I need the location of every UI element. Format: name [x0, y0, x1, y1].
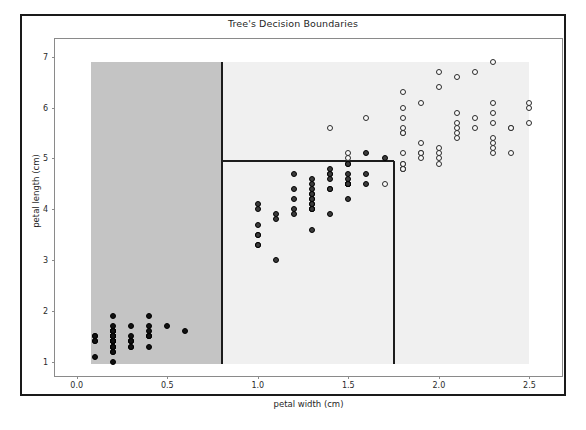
y-tick-label: 2 — [43, 306, 48, 315]
y-tick-label: 4 — [43, 205, 48, 214]
y-tick-mark — [52, 57, 55, 58]
y-tick-mark — [52, 209, 55, 210]
data-point-virginica — [382, 181, 388, 187]
y-tick-mark — [52, 260, 55, 261]
x-tick-label: 2.5 — [523, 381, 536, 390]
data-point-virginica — [490, 100, 496, 106]
data-point-virginica — [400, 166, 406, 172]
data-point-virginica — [490, 110, 496, 116]
data-point-virginica — [418, 140, 424, 146]
data-point-virginica — [454, 125, 460, 131]
data-point-versicolor — [327, 166, 333, 172]
y-tick-label: 6 — [43, 103, 48, 112]
y-tick-label: 3 — [43, 256, 48, 265]
x-tick-mark — [167, 376, 168, 379]
x-axis-label: petal width (cm) — [54, 399, 563, 409]
data-point-setosa — [110, 359, 116, 365]
data-point-virginica — [436, 69, 442, 75]
data-point-virginica — [454, 110, 460, 116]
data-point-versicolor — [291, 171, 297, 177]
y-tick-label: 5 — [43, 154, 48, 163]
data-point-virginica — [472, 115, 478, 121]
x-tick-mark — [348, 376, 349, 379]
data-point-setosa — [92, 354, 98, 360]
plot-surface — [55, 39, 562, 376]
data-point-virginica — [418, 100, 424, 106]
split-petal-length-4.95 — [222, 160, 394, 162]
x-tick-label: 0.5 — [161, 381, 174, 390]
data-point-versicolor — [345, 161, 351, 167]
x-tick-mark — [439, 376, 440, 379]
data-point-versicolor — [291, 186, 297, 192]
y-axis-label: petal length (cm) — [31, 111, 41, 271]
x-tick-label: 1.5 — [342, 381, 355, 390]
x-tick-mark — [258, 376, 259, 379]
data-point-virginica — [472, 125, 478, 131]
x-tick-mark — [77, 376, 78, 379]
data-point-setosa — [110, 344, 116, 350]
data-point-setosa — [110, 313, 116, 319]
data-point-virginica — [526, 100, 532, 106]
data-point-virginica — [400, 130, 406, 136]
data-point-virginica — [400, 115, 406, 121]
plot-axes: 0.00.51.01.52.02.5 1234567 — [54, 38, 563, 377]
data-point-virginica — [526, 120, 532, 126]
data-point-versicolor — [273, 257, 279, 263]
data-point-versicolor — [255, 222, 261, 228]
y-tick-mark — [52, 158, 55, 159]
data-point-versicolor — [255, 201, 261, 207]
chart-title: Tree's Decision Boundaries — [22, 18, 564, 29]
y-tick-mark — [52, 108, 55, 109]
figure-frame: Tree's Decision Boundaries petal length … — [20, 14, 566, 396]
x-tick-label: 0.0 — [70, 381, 83, 390]
data-point-versicolor — [255, 232, 261, 238]
data-point-versicolor — [309, 176, 315, 182]
data-point-setosa — [146, 344, 152, 350]
y-tick-mark — [52, 362, 55, 363]
data-point-versicolor — [327, 176, 333, 182]
data-point-virginica — [436, 161, 442, 167]
data-point-setosa — [128, 344, 134, 350]
setosa-region — [91, 62, 221, 364]
x-tick-label: 2.0 — [432, 381, 445, 390]
x-tick-mark — [529, 376, 530, 379]
split-petal-width-1.75 — [393, 161, 395, 364]
data-point-versicolor — [309, 227, 315, 233]
split-petal-width-0.8 — [221, 62, 223, 364]
data-point-virginica — [400, 105, 406, 111]
versicolor-virginica-region — [222, 62, 530, 364]
y-tick-label: 7 — [43, 52, 48, 61]
x-tick-label: 1.0 — [251, 381, 264, 390]
y-tick-label: 1 — [43, 357, 48, 366]
y-tick-mark — [52, 311, 55, 312]
data-point-versicolor — [255, 242, 261, 248]
